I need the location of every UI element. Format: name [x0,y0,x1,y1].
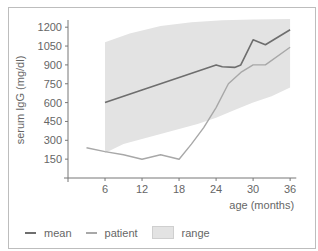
y-tick-label: 1200 [38,21,62,33]
x-axis-title: age (months) [229,199,294,211]
legend-label-mean: mean [44,227,72,239]
patient-line-swatch-icon [86,232,97,234]
legend-item-mean: mean [25,227,72,239]
x-tick-label: 36 [284,183,296,195]
legend-item-range: range [152,226,210,239]
y-tick-label: 150 [44,153,62,165]
range-area-swatch-icon [152,226,174,239]
y-tick-label: 1050 [38,40,62,52]
chart-plot: 1503004506007509001050120061218243036age… [0,0,318,251]
legend-label-range: range [182,227,210,239]
x-tick-label: 6 [102,183,108,195]
y-tick-label: 600 [44,97,62,109]
y-axis-title: serum IgG (mg/dl) [14,56,26,145]
range-area [105,19,290,153]
mean-line-swatch-icon [25,232,36,234]
legend: mean patient range [25,226,224,239]
x-tick-label: 12 [136,183,148,195]
x-tick-label: 18 [173,183,185,195]
legend-item-patient: patient [86,227,138,239]
y-tick-label: 900 [44,59,62,71]
legend-label-patient: patient [105,227,138,239]
x-tick-label: 30 [247,183,259,195]
x-tick-label: 24 [210,183,222,195]
y-tick-label: 750 [44,78,62,90]
y-tick-label: 300 [44,134,62,146]
y-tick-label: 450 [44,115,62,127]
